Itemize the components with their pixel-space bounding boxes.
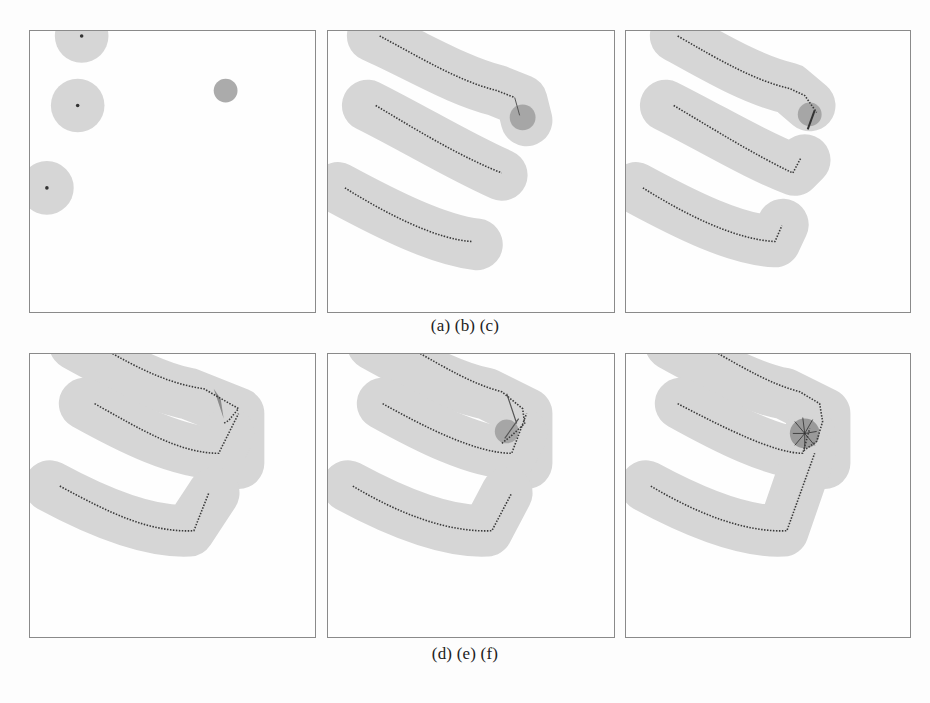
panel-e-plot <box>328 354 614 637</box>
panel-f <box>625 353 911 638</box>
panel-d <box>29 353 316 638</box>
caption-top-row: (a) (b) (c) <box>0 316 930 336</box>
panel-c-plot <box>626 31 910 312</box>
target-circle <box>510 104 536 130</box>
coverage-circle <box>30 161 74 215</box>
target-circle <box>214 79 238 103</box>
panel-a <box>29 30 316 313</box>
panel-c <box>625 30 911 313</box>
panel-a-plot <box>30 31 315 312</box>
panel-f-plot <box>626 354 910 637</box>
panel-b-plot <box>328 31 614 312</box>
panel-d-plot <box>30 354 315 637</box>
caption-bottom-row: (d) (e) (f) <box>0 644 930 664</box>
panel-b <box>327 30 615 313</box>
panel-e <box>327 353 615 638</box>
